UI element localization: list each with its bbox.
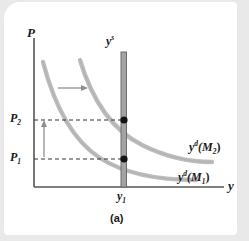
- equilibrium-point-e1: [120, 155, 127, 162]
- price-increase-arrow-head: [41, 120, 47, 127]
- price-tick-p1-sub: 1: [17, 157, 21, 166]
- demand-curve-m1-label: yd(M1): [178, 170, 209, 186]
- demand-m1-arg-close: ): [205, 170, 209, 184]
- price-tick-p2: P2: [10, 112, 21, 127]
- demand-curve-m1-highlight: [43, 62, 196, 180]
- price-tick-p1: P1: [10, 151, 21, 166]
- quantity-tick-y1: y1: [117, 190, 126, 205]
- price-tick-p2-sub: 2: [17, 118, 21, 127]
- demand-m2-arg-close: ): [216, 140, 220, 154]
- x-axis-title: y: [228, 179, 234, 192]
- figure-caption: (a): [110, 212, 123, 224]
- demand-shift-arrow-head: [81, 85, 88, 91]
- supply-curve-label: ys: [106, 34, 114, 47]
- supply-curve-label-sup: s: [111, 33, 114, 42]
- figure-container: P y ys P2 P1 y1 yd(M2) yd(M1) (a): [0, 0, 249, 241]
- y-axis-title: P: [27, 26, 35, 39]
- equilibrium-point-e2: [120, 116, 127, 123]
- demand-curve-m2-label: yd(M2): [189, 140, 220, 156]
- demand-m2-arg-open: (M: [198, 140, 213, 154]
- quantity-tick-y1-sub: 1: [122, 196, 126, 205]
- demand-m1-arg-open: (M: [187, 170, 202, 184]
